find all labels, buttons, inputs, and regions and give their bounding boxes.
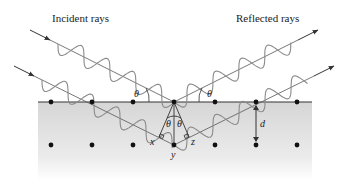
theta-reflected-label: θ	[207, 89, 212, 99]
atom	[90, 143, 95, 148]
atom	[90, 100, 95, 105]
atom	[172, 100, 177, 105]
bragg-diffraction-diagram: Incident rays Reflected rays θ θ θ θ x y…	[0, 0, 346, 180]
atom	[254, 100, 259, 105]
atom	[131, 100, 136, 105]
reflected-ray-1	[174, 30, 318, 107]
point-y-label: y	[171, 150, 175, 160]
atom	[213, 143, 218, 148]
theta-right-inner-label: θ	[177, 119, 182, 129]
crystal-slab	[38, 102, 312, 180]
theta-left-inner-label: θ	[166, 119, 171, 129]
incident-rays-label: Incident rays	[52, 12, 109, 24]
d-spacing-label: d	[260, 119, 265, 129]
atom	[295, 143, 300, 148]
point-z-label: z	[191, 137, 195, 147]
atom	[49, 100, 54, 105]
atom	[295, 100, 300, 105]
atom	[254, 143, 259, 148]
point-x-label: x	[150, 137, 154, 147]
atom	[49, 143, 54, 148]
atom	[213, 100, 218, 105]
theta-incident-label: θ	[134, 89, 139, 99]
reflected-rays-label: Reflected rays	[236, 12, 299, 24]
atom	[131, 143, 136, 148]
incident-ray-1	[30, 30, 174, 107]
atom	[172, 143, 177, 148]
